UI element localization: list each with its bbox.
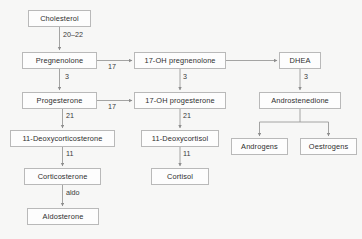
enzyme-label-progesterone-to-17-oh-progesterone: 17 — [108, 103, 116, 110]
node-label-17-oh-progesterone: 17-OH progesterone — [145, 97, 215, 104]
node-androstenedione[interactable]: Androstenedione — [259, 92, 341, 109]
node-label-17-oh-pregnenolone: 17-OH pregnenolone — [144, 57, 215, 64]
enzyme-label-17-oh-progesterone-to-11-deoxycortisol: 21 — [183, 112, 191, 119]
node-11-deoxycortisol[interactable]: 11-Deoxycortisol — [141, 130, 219, 147]
enzyme-label-dhea-to-androstenedione: 3 — [304, 73, 308, 80]
enzyme-label-corticosterone-to-aldosterone: aldo — [66, 189, 80, 196]
node-label-11-deoxycortisol: 11-Deoxycortisol — [152, 135, 208, 142]
pathway-connector-layer — [0, 0, 362, 239]
steroidogenesis-diagram: Cholesterol Pregnenolone Progesterone 11… — [0, 0, 362, 239]
node-progesterone[interactable]: Progesterone — [22, 92, 97, 109]
enzyme-label-pregnenolone-to-progesterone: 3 — [65, 73, 69, 80]
node-label-corticosterone: Corticosterone — [38, 173, 88, 180]
node-17-oh-pregnenolone[interactable]: 17-OH pregnenolone — [134, 52, 226, 69]
node-label-androstenedione: Androstenedione — [271, 97, 329, 104]
node-label-progesterone: Progesterone — [37, 97, 83, 104]
node-aldosterone[interactable]: Aldosterone — [27, 208, 99, 225]
node-dhea[interactable]: DHEA — [279, 52, 321, 69]
enzyme-label-17-oh-pregnenolone-to-17-oh-progesterone: 3 — [183, 73, 187, 80]
node-label-cholesterol: Cholesterol — [40, 15, 79, 22]
node-label-pregnenolone: Pregnenolone — [36, 57, 83, 64]
node-label-11-deoxycorticosterone: 11-Deoxycorticosterone — [22, 135, 102, 142]
node-pregnenolone[interactable]: Pregnenolone — [22, 52, 97, 69]
node-oestrogens[interactable]: Oestrogens — [300, 138, 357, 155]
node-label-oestrogens: Oestrogens — [309, 143, 348, 150]
enzyme-label-progesterone-to-11-deoxycorticosterone: 21 — [66, 112, 74, 119]
enzyme-label-11-deoxycortisol-to-cortisol: 11 — [183, 150, 190, 157]
node-label-cortisol: Cortisol — [167, 173, 193, 180]
node-label-androgens: Androgens — [241, 143, 278, 150]
node-label-aldosterone: Aldosterone — [43, 213, 84, 220]
node-cholesterol[interactable]: Cholesterol — [28, 10, 91, 27]
node-androgens[interactable]: Androgens — [231, 138, 288, 155]
node-17-oh-progesterone[interactable]: 17-OH progesterone — [134, 92, 226, 109]
node-corticosterone[interactable]: Corticosterone — [24, 168, 101, 185]
node-11-deoxycorticosterone[interactable]: 11-Deoxycorticosterone — [10, 130, 115, 147]
node-cortisol[interactable]: Cortisol — [151, 168, 209, 185]
enzyme-label-11-deoxycorticosterone-to-corticosterone: 11 — [66, 150, 73, 157]
enzyme-label-pregnenolone-to-17-oh-pregnenolone: 17 — [108, 63, 116, 70]
node-label-dhea: DHEA — [289, 57, 310, 64]
enzyme-label-cholesterol-to-pregnenolone: 20–22 — [63, 31, 83, 38]
